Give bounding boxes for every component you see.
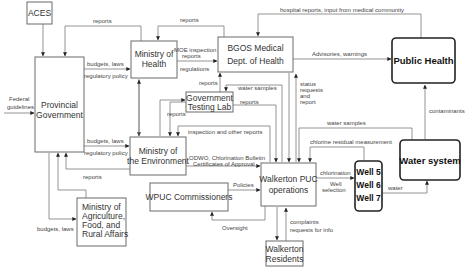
label-policies: Policies	[233, 182, 254, 188]
edge-hospital-reports	[258, 14, 421, 38]
label-chlorine-residual: chlorine residual measurement	[310, 139, 392, 145]
bgos-label-1: BGOS Medical	[227, 43, 283, 53]
edge-water-samples-ws	[299, 128, 412, 162]
provincial-label-2: Government	[36, 110, 83, 120]
label-budgets-moh: budgets, laws	[87, 61, 124, 67]
public-health-label: Public Health	[393, 55, 453, 66]
node-testing-lab: Government Testing Lab	[186, 92, 234, 112]
label-budgets-agri: budgets, laws	[37, 226, 74, 232]
agri-label-4: Rural Affairs	[82, 229, 128, 239]
well-5-label: Well 5	[356, 167, 381, 177]
provincial-label-1: Provincial	[41, 100, 78, 110]
label-reports-provincial: reports	[93, 18, 112, 24]
label-budgets-moe: budgets, laws	[87, 138, 124, 144]
moe-label-2: the Environment	[127, 156, 190, 166]
node-ministry-health: Ministry of Health	[131, 41, 177, 78]
label-reports-moe-provincial: reports	[83, 174, 102, 180]
well-6-label: Well 6	[356, 180, 381, 190]
node-provincial-government: Provincial Government	[35, 57, 84, 152]
node-bgos-medical: BGOS Medical Dept. of Health	[218, 37, 293, 72]
moh-label-1: Ministry of	[135, 49, 174, 59]
node-ministry-agriculture: Ministry of Agriculture, Food, and Rural…	[77, 198, 128, 246]
label-inspection: inspection and other reports	[188, 129, 262, 135]
residents-label-2: Residents	[266, 254, 304, 264]
label-regpolicy-moh: regulatory policy	[84, 73, 128, 79]
node-wpuc-commissioners: WPUC Commissioners	[146, 183, 233, 211]
wpuc-label: WPUC Commissioners	[146, 192, 233, 202]
label-water-samples-lab: water samples	[237, 85, 277, 91]
node-ministry-environment: Ministry of the Environment	[127, 137, 190, 175]
label-odwo-2: Certificates of Approval	[193, 161, 255, 167]
walkerton-system-diagram: ACES Provincial Government Ministry of H…	[0, 0, 465, 275]
label-oversight: Oversight	[222, 225, 248, 231]
label-reports-lab-moe: reports	[167, 111, 186, 117]
label-complaints-2: requests for info	[290, 227, 334, 233]
label-contaminants: contaminants	[429, 108, 465, 114]
label-water-samples-ws: water samples	[326, 120, 366, 126]
edge-chlorine-residual	[310, 147, 364, 162]
edge-budgets-agri	[49, 153, 76, 219]
moe-label-1: Ministry of	[139, 146, 178, 156]
label-chlorination: chlorination	[320, 170, 351, 176]
node-wells: Well 5 Well 6 Well 7	[355, 161, 382, 211]
label-reports-lab-puc: reports	[240, 99, 259, 105]
label-regulations: regulations	[180, 66, 209, 72]
label-hospital-reports: hospital reports, input from medical com…	[280, 7, 404, 13]
node-water-system: Water system	[399, 140, 460, 180]
water-system-label: Water system	[399, 155, 460, 166]
edge-reports-agri-provincial	[58, 153, 86, 198]
node-walkerton-puc: Walkerton PUC operations	[259, 163, 317, 206]
label-reports-lab-bgos: reports	[199, 80, 218, 86]
edge-reports-moh-provincial	[65, 26, 141, 56]
bgos-label-2: Dept. of Health	[227, 56, 284, 66]
label-federal-2: guidelines	[7, 104, 34, 110]
node-aces: ACES	[27, 2, 52, 24]
edge-water-samples-lab	[226, 85, 282, 162]
label-regpolicy-moe: regulatory policy	[84, 150, 128, 156]
label-moe-inspection-2: reports	[182, 53, 201, 59]
label-water: water	[387, 185, 403, 191]
lab-label-2: Testing Lab	[188, 102, 232, 112]
well-7-label: Well 7	[356, 193, 381, 203]
edge-moe-lab	[160, 100, 185, 136]
label-complaints-1: complaints	[290, 219, 319, 225]
edge-reports-bgos-moh	[158, 26, 224, 40]
puc-label-1: Walkerton PUC	[259, 174, 317, 184]
node-walkerton-residents: Walkerton Residents	[266, 241, 304, 266]
label-status-4: report	[300, 99, 316, 105]
node-public-health: Public Health	[392, 38, 455, 83]
moh-label-2: Health	[142, 59, 167, 69]
puc-label-2: operations	[269, 185, 309, 195]
aces-label: ACES	[28, 8, 51, 18]
label-well-selection-2: selection	[322, 187, 346, 193]
label-reports-moh: reports	[180, 17, 199, 23]
label-advisories: Advisories, warnings	[312, 51, 367, 57]
label-federal-1: Federal	[9, 96, 29, 102]
residents-label-1: Walkerton	[266, 244, 304, 254]
